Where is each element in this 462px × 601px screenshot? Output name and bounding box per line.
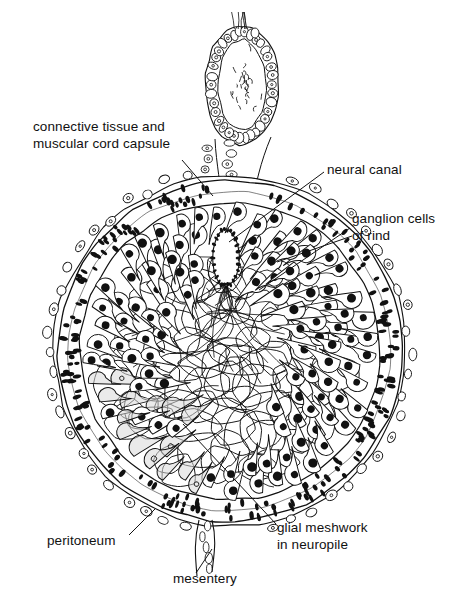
label-glial-meshwork: glial meshwork in neuropile	[277, 519, 368, 553]
diagram-artwork	[0, 0, 462, 601]
label-neural-canal: neural canal	[327, 161, 402, 178]
label-mesentery: mesentery	[173, 570, 237, 587]
label-peritoneum: peritoneum	[47, 532, 116, 549]
label-connective-tissue-capsule: connective tissue and muscular cord caps…	[33, 118, 170, 152]
label-ganglion-cells-of-rind: ganglion cells of rind	[352, 210, 435, 244]
ventral-mesentery	[195, 520, 214, 576]
nerve-cord-diagram: connective tissue and muscular cord caps…	[0, 0, 462, 601]
